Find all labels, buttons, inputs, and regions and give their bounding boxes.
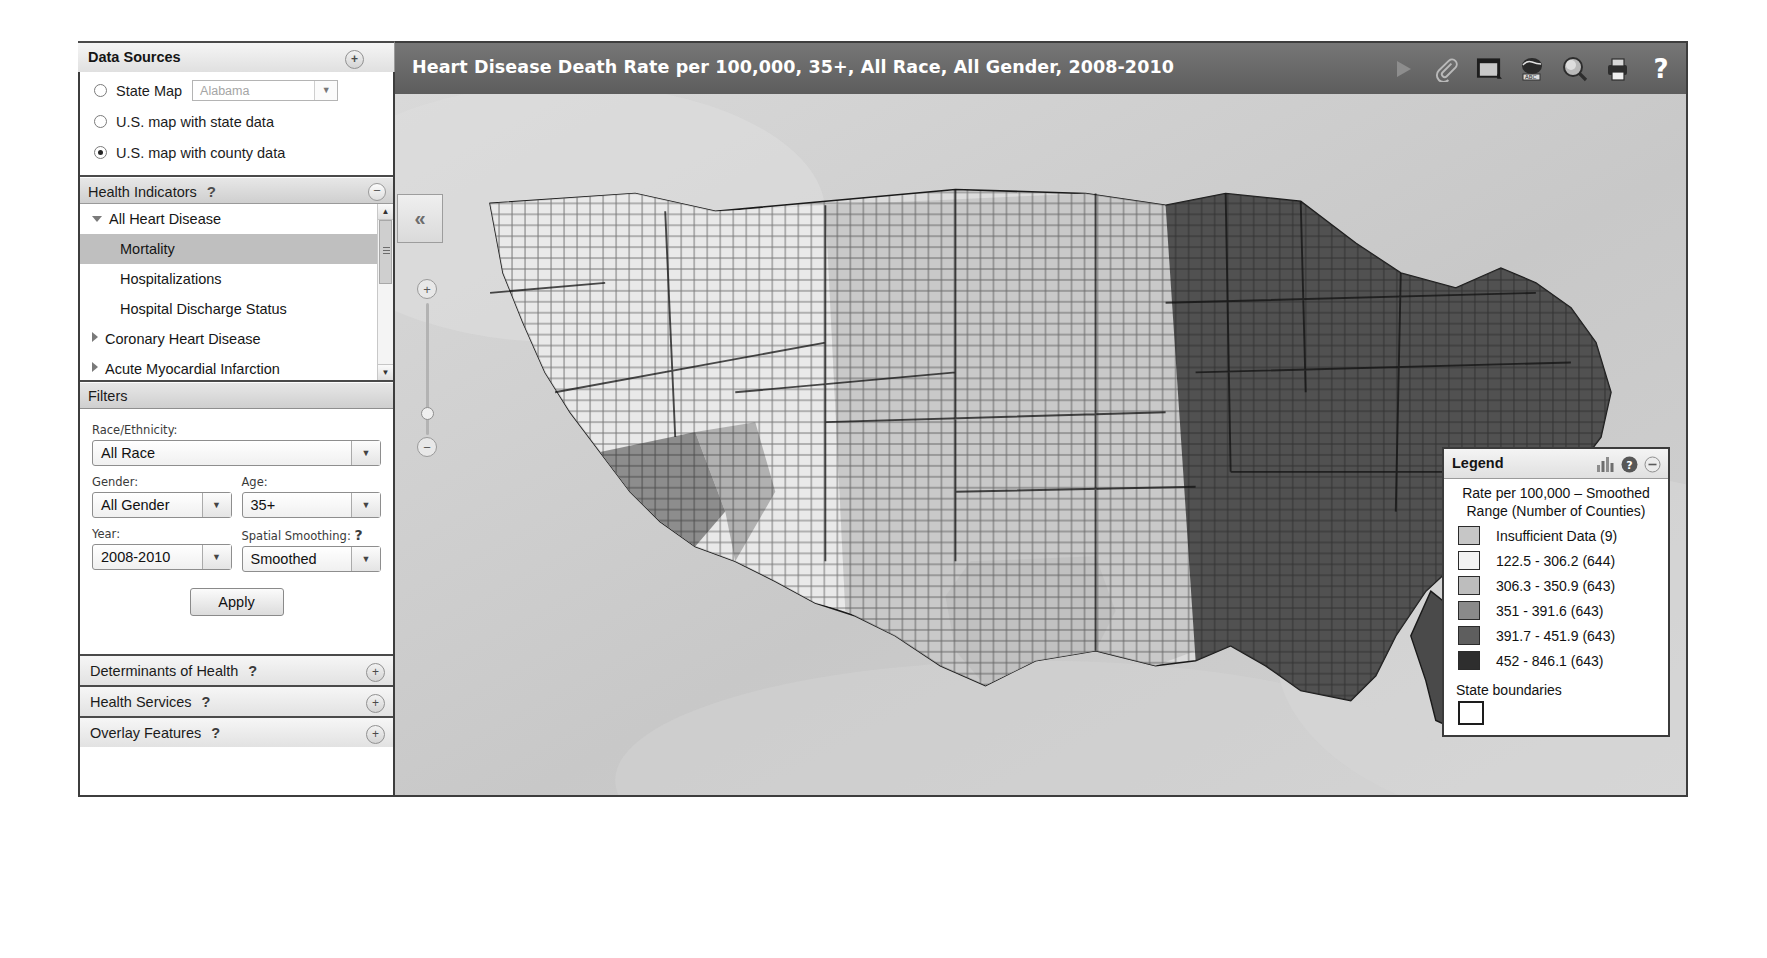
panel-overlay-features[interactable]: Overlay Features ? + — [80, 716, 393, 747]
globe-icon[interactable]: ABC — [1517, 54, 1547, 84]
radio-us-state-data[interactable]: U.S. map with state data — [80, 106, 393, 137]
chevron-right-icon[interactable] — [92, 362, 98, 372]
chevron-right-icon[interactable] — [92, 332, 98, 342]
legend-row[interactable]: 306.3 - 350.9 (643) — [1444, 573, 1668, 598]
panel-label: Determinants of Health — [90, 663, 238, 679]
plus-circle-icon[interactable]: + — [345, 50, 364, 69]
health-indicators-help-icon[interactable]: ? — [207, 183, 216, 200]
paperclip-icon[interactable] — [1431, 54, 1461, 84]
tree-item-all-heart-disease[interactable]: All Heart Disease — [80, 204, 393, 234]
tree-item-label: Coronary Heart Disease — [105, 331, 261, 347]
tree-item-label: Hospital Discharge Status — [120, 301, 287, 317]
minus-circle-icon[interactable]: − — [368, 183, 386, 201]
panel-determinants-of-health[interactable]: Determinants of Health ? + — [80, 654, 393, 685]
plus-circle-icon[interactable]: + — [366, 694, 385, 713]
legend-row[interactable]: 351 - 391.6 (643) — [1444, 598, 1668, 623]
race-select[interactable]: All Race ▼ — [92, 440, 381, 466]
legend-row[interactable]: 391.7 - 451.9 (643) — [1444, 623, 1668, 648]
chevron-down-icon[interactable]: ▼ — [351, 441, 380, 465]
minus-circle-icon[interactable] — [1644, 454, 1661, 483]
collapse-sidebar-button[interactable]: « — [397, 194, 443, 243]
smoothing-help-icon[interactable]: ? — [354, 527, 362, 543]
year-select[interactable]: 2008-2010 ▼ — [92, 544, 232, 570]
apply-button[interactable]: Apply — [190, 588, 284, 616]
legend-row[interactable]: 122.5 - 306.2 (644) — [1444, 548, 1668, 573]
gender-label: Gender: — [92, 475, 232, 489]
race-value: All Race — [101, 445, 155, 461]
window-icon[interactable] — [1474, 54, 1504, 84]
tree-item-label: All Heart Disease — [109, 211, 221, 227]
tree-item-acute-myocardial-infarction[interactable]: Acute Myocardial Infarction — [80, 354, 393, 384]
spatial-smoothing-label: Spatial Smoothing: ? — [242, 527, 382, 543]
legend-label: 122.5 - 306.2 (644) — [1496, 553, 1615, 569]
age-label: Age: — [242, 475, 382, 489]
collapse-chevron-icon: « — [414, 207, 425, 230]
overlay-features-help-icon[interactable]: ? — [211, 725, 220, 741]
determinants-help-icon[interactable]: ? — [248, 663, 257, 679]
radio-us-county-data[interactable]: U.S. map with county data — [80, 137, 393, 168]
radio-label: U.S. map with county data — [116, 145, 285, 161]
tree-item-mortality[interactable]: Mortality — [80, 234, 393, 264]
magnifier-icon[interactable] — [1560, 54, 1590, 84]
tree-item-hospital-discharge-status[interactable]: Hospital Discharge Status — [80, 294, 393, 324]
svg-text:?: ? — [1626, 459, 1632, 472]
state-boundaries-swatch — [1458, 701, 1484, 725]
smoothing-select[interactable]: Smoothed ▼ — [242, 546, 382, 572]
radio-label: State Map — [116, 83, 182, 99]
help-circle-icon[interactable]: ? — [1621, 454, 1638, 483]
map-canvas[interactable]: « + − Legend — [395, 94, 1686, 795]
legend-swatch — [1458, 576, 1480, 595]
zoom-in-button[interactable]: + — [417, 279, 437, 299]
gender-select[interactable]: All Gender ▼ — [92, 492, 232, 518]
radio-icon[interactable] — [94, 84, 107, 97]
year-label: Year: — [92, 527, 232, 541]
panel-label: Health Services — [90, 694, 192, 710]
legend-swatch — [1458, 626, 1480, 645]
legend-row[interactable]: 452 - 846.1 (643) — [1444, 648, 1668, 673]
health-indicators-panel-header[interactable]: Health Indicators ? − — [80, 177, 393, 204]
bar-chart-icon[interactable] — [1596, 454, 1615, 483]
state-select[interactable]: Alabama ▼ — [192, 80, 338, 101]
scroll-up-button[interactable]: ▲ — [378, 204, 393, 220]
legend-label: 391.7 - 451.9 (643) — [1496, 628, 1615, 644]
scrollbar-thumb[interactable] — [379, 220, 392, 284]
race-label: Race/Ethnicity: — [92, 423, 381, 437]
panel-health-services[interactable]: Health Services ? + — [80, 685, 393, 716]
legend-row[interactable]: Insufficient Data (9) — [1444, 523, 1668, 548]
chevron-down-icon[interactable]: ▼ — [202, 545, 231, 569]
scroll-down-button[interactable]: ▼ — [378, 364, 393, 380]
tree-item-coronary-heart-disease[interactable]: Coronary Heart Disease — [80, 324, 393, 354]
tree-scrollbar[interactable]: ▲ ▼ — [377, 204, 393, 380]
zoom-slider-thumb[interactable] — [421, 407, 434, 420]
tree-item-hospitalizations[interactable]: Hospitalizations — [80, 264, 393, 294]
filters-panel-header[interactable]: Filters — [80, 382, 393, 409]
panel-label: Overlay Features — [90, 725, 201, 741]
chevron-down-icon[interactable]: ▼ — [351, 547, 380, 571]
chevron-down-icon[interactable]: ▼ — [202, 493, 231, 517]
legend-swatch — [1458, 526, 1480, 545]
chevron-down-icon[interactable]: ▼ — [314, 81, 337, 100]
chevron-down-icon[interactable]: ▼ — [351, 493, 380, 517]
data-sources-bar[interactable]: Data Sources + — [78, 41, 395, 72]
plus-circle-icon[interactable]: + — [366, 663, 385, 682]
zoom-control[interactable]: + − — [417, 279, 443, 459]
radio-icon[interactable] — [94, 115, 107, 128]
age-value: 35+ — [251, 497, 276, 513]
zoom-out-button[interactable]: − — [417, 437, 437, 457]
health-services-help-icon[interactable]: ? — [202, 694, 211, 710]
plus-circle-icon[interactable]: + — [366, 725, 385, 744]
age-select[interactable]: 35+ ▼ — [242, 492, 382, 518]
plus-icon: + — [423, 282, 431, 297]
chevron-down-icon[interactable] — [92, 216, 102, 222]
gender-value: All Gender — [101, 497, 170, 513]
smoothing-value: Smoothed — [251, 551, 317, 567]
radio-state-map[interactable]: State Map Alabama ▼ — [80, 75, 393, 106]
printer-icon[interactable] — [1603, 54, 1633, 84]
play-icon[interactable] — [1388, 54, 1418, 84]
health-indicators-title: Health Indicators — [88, 184, 197, 200]
legend-header[interactable]: Legend — [1444, 449, 1668, 479]
radio-icon-selected[interactable] — [94, 146, 107, 159]
legend-label: 452 - 846.1 (643) — [1496, 653, 1603, 669]
legend-heading: Rate per 100,000 – Smoothed — [1444, 484, 1668, 502]
help-icon[interactable]: ? — [1646, 54, 1676, 84]
